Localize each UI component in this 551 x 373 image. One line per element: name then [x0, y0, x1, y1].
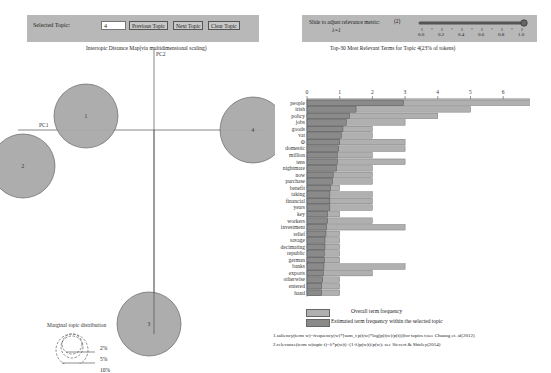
estimated-frequency-bar — [307, 231, 326, 237]
term-bar-row[interactable]: irish — [295, 106, 470, 112]
term-bar-row[interactable]: domestic — [285, 145, 405, 151]
term-bar-row[interactable]: otherwise — [284, 276, 340, 282]
topic-label: 1 — [85, 113, 88, 119]
x-tick-label: 5 — [469, 89, 472, 95]
term-bar-row[interactable]: decimating — [281, 244, 340, 250]
estimated-frequency-bar — [307, 211, 328, 217]
term-bar-row[interactable]: german — [289, 257, 340, 263]
topic-label: 4 — [252, 127, 255, 133]
estimated-frequency-bar — [307, 238, 325, 244]
term-label[interactable]: hand — [294, 290, 305, 296]
term-label[interactable]: jobs — [295, 119, 305, 125]
previous-topic-button[interactable]: Previous Topic — [129, 21, 168, 30]
topic-circle-4[interactable]: 4 — [220, 97, 275, 163]
term-label[interactable]: domestic — [285, 145, 305, 151]
term-label[interactable]: irish — [295, 106, 305, 112]
x-tick-label: 2 — [371, 89, 374, 95]
x-tick-label: 4 — [436, 89, 439, 95]
term-bar-row[interactable]: relief — [293, 231, 339, 237]
term-bar-row[interactable]: benefit — [290, 185, 340, 191]
term-label[interactable]: entered — [289, 283, 305, 289]
selected-topic-input[interactable]: 4 — [101, 21, 126, 30]
clear-topic-button[interactable]: Clear Topic — [208, 21, 240, 30]
estimated-frequency-bar — [307, 146, 339, 152]
estimated-frequency-label: Estimated term frequency within the sele… — [331, 318, 443, 324]
term-label[interactable]: key — [297, 211, 305, 217]
term-bar-row[interactable]: investment — [281, 224, 405, 230]
overall-frequency-swatch — [306, 309, 330, 317]
estimated-frequency-bar — [307, 264, 324, 270]
estimated-frequency-bar — [307, 159, 337, 165]
term-bar-row[interactable]: hand — [294, 290, 339, 296]
term-bar-row[interactable]: banks — [292, 263, 405, 269]
term-bar-row[interactable]: million — [289, 152, 372, 158]
term-label[interactable]: decimating — [281, 244, 306, 250]
term-label[interactable]: years — [293, 204, 305, 210]
term-label[interactable]: otherwise — [284, 276, 306, 282]
term-bar-row[interactable]: republic — [287, 250, 340, 256]
next-topic-button[interactable]: Next Topic — [173, 21, 203, 30]
term-label[interactable]: savage — [290, 237, 306, 243]
term-label[interactable]: banks — [292, 263, 305, 269]
term-label[interactable]: german — [289, 257, 306, 263]
intertopic-distance-map: PC2 PC1 1234 Marginal topic distribution — [0, 44, 275, 364]
estimated-frequency-bar — [307, 152, 337, 158]
term-label[interactable]: purchase — [285, 178, 305, 184]
estimated-frequency-bar — [307, 133, 341, 139]
estimated-frequency-bar — [307, 218, 328, 224]
legend-2pct: 2% — [100, 345, 107, 351]
term-bar-row[interactable]: savage — [290, 237, 340, 243]
topic-label: 2 — [22, 163, 25, 169]
term-label[interactable]: million — [289, 152, 305, 158]
term-label[interactable]: nightmare — [283, 165, 306, 171]
slider-handle[interactable] — [521, 20, 527, 26]
term-bar-row[interactable]: tens — [296, 159, 405, 165]
legend-5pct: 5% — [100, 356, 107, 362]
term-bar-row[interactable]: purchase — [285, 178, 372, 184]
term-label[interactable]: republic — [287, 250, 306, 256]
term-label[interactable]: tens — [296, 159, 305, 165]
term-bar-row[interactable]: key — [297, 211, 340, 217]
term-label[interactable]: vat — [298, 132, 305, 138]
term-label[interactable]: workers — [287, 218, 305, 224]
term-bar-row[interactable]: taking — [291, 191, 372, 197]
x-tick-label: 3 — [404, 89, 407, 95]
term-label[interactable]: policy — [291, 113, 305, 119]
topic-circle-1[interactable]: 1 — [54, 84, 118, 148]
term-bar-row[interactable]: policy — [291, 113, 438, 119]
term-label[interactable]: benefit — [290, 185, 306, 191]
slider-tick-label: 0.0 — [418, 32, 424, 37]
term-bar-row[interactable]: financial — [286, 198, 373, 204]
term-bar-row[interactable]: jobs — [295, 119, 405, 125]
term-bar-row[interactable]: now — [296, 172, 373, 178]
term-bar-row[interactable]: years — [293, 204, 372, 210]
term-bar-row[interactable]: exports — [289, 270, 373, 276]
estimated-frequency-bar — [307, 185, 331, 191]
relevance-slider[interactable] — [302, 15, 537, 42]
term-label[interactable]: exports — [289, 270, 305, 276]
term-label[interactable]: taking — [291, 191, 305, 197]
term-bar-row[interactable]: people — [290, 100, 530, 106]
topic-circle-2[interactable]: 2 — [0, 134, 55, 198]
term-bar-row[interactable]: workers — [287, 218, 372, 224]
term-bar-row[interactable]: Ф — [301, 139, 405, 145]
estimated-frequency-swatch — [306, 319, 330, 327]
slider-tick-label: 0.2 — [438, 32, 444, 37]
relevance-slider-panel: Slide to adjust relevance metric: λ=1 (2… — [302, 15, 537, 42]
term-label[interactable]: Ф — [301, 139, 306, 145]
term-bar-row[interactable]: nightmare — [283, 165, 373, 171]
term-label[interactable]: relief — [293, 231, 305, 237]
term-label[interactable]: now — [296, 172, 306, 178]
estimated-frequency-bar — [307, 139, 340, 145]
saliency-footnote: 1.saliency(term w)=frequency(w)*[sum_t p… — [273, 333, 475, 338]
term-bar-row[interactable]: vat — [298, 132, 372, 138]
term-bar-row[interactable]: goods — [292, 126, 373, 132]
term-label[interactable]: goods — [292, 126, 305, 132]
legend-10pct: 10% — [100, 367, 110, 373]
term-label[interactable]: investment — [281, 224, 306, 230]
term-label[interactable]: financial — [286, 198, 306, 204]
x-tick-label: 0 — [306, 89, 309, 95]
term-label[interactable]: people — [290, 100, 305, 106]
topic-circle-3[interactable]: 3 — [117, 292, 181, 356]
term-bar-row[interactable]: entered — [289, 283, 340, 289]
